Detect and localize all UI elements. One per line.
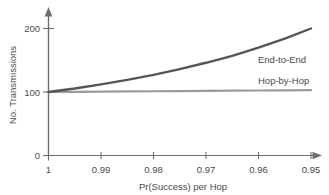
y-axis-arrowhead: [45, 7, 53, 17]
series-line-hop-by-hop: [49, 90, 312, 92]
x-axis-title: Pr(Success) per Hop: [139, 181, 227, 192]
y-axis: [45, 7, 53, 156]
x-axis: [49, 152, 323, 159]
x-tick-label-0.98: 0.98: [144, 164, 163, 175]
x-tick-label-0.96: 0.96: [249, 164, 268, 175]
y-tick-label-100: 100: [24, 87, 40, 98]
x-tick-label-0.97: 0.97: [197, 164, 216, 175]
y-tick-label-0: 0: [35, 150, 40, 161]
y-tick-label-200: 200: [24, 23, 40, 34]
chart-figure: 200 100 0 1 0.99 0.98 0.97 0.96 0.95 No.…: [0, 0, 329, 195]
x-tick-label-0.95: 0.95: [302, 164, 321, 175]
series-label-hop-by-hop: Hop-by-Hop: [258, 75, 309, 86]
x-tick-label-1: 1: [46, 164, 51, 175]
chart-canvas: 200 100 0 1 0.99 0.98 0.97 0.96 0.95 No.…: [0, 0, 329, 195]
x-tick-label-0.99: 0.99: [92, 164, 111, 175]
series-label-end-to-end: End-to-End: [258, 54, 306, 65]
x-axis-arrowhead: [313, 152, 323, 159]
y-axis-title: No. Transmissions: [7, 46, 18, 124]
